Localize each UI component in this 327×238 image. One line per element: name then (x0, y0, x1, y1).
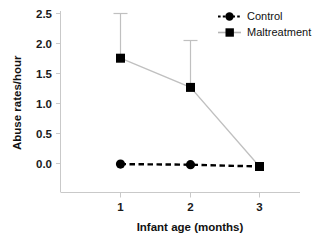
y-axis-title: Abuse rates/hour (11, 55, 23, 150)
legend-label-control: Control (247, 10, 282, 22)
legend-label-maltreatment: Maltreatment (247, 26, 311, 38)
data-point-maltreatment-2 (186, 83, 195, 92)
x-tick-label-1: 1 (117, 201, 124, 213)
chart-figure: 2.5 2.0 1.5 1.0 0.5 0.0 1 2 3 Abuse rate… (0, 0, 327, 238)
abuse-rates-line-chart: 2.5 2.0 1.5 1.0 0.5 0.0 1 2 3 Abuse rate… (0, 0, 327, 238)
y-tick-label-1-5: 1.5 (36, 68, 53, 80)
y-tick-label-2-0: 2.0 (36, 38, 52, 50)
y-tick-label-0-5: 0.5 (36, 128, 53, 140)
x-tick-label-3: 3 (256, 201, 262, 213)
y-tick-label-0-0: 0.0 (36, 158, 52, 170)
x-tick-label-2: 2 (187, 201, 193, 213)
data-point-control-1 (116, 160, 125, 169)
legend-marker-maltreatment-square-icon (226, 28, 234, 36)
x-axis-title: Infant age (months) (137, 221, 244, 233)
y-tick-label-1-0: 1.0 (36, 98, 52, 110)
data-point-control-3 (255, 162, 264, 171)
y-tick-label-2-5: 2.5 (36, 8, 53, 20)
legend-marker-control-circle-icon (225, 12, 233, 20)
data-point-maltreatment-1 (116, 54, 125, 63)
data-point-control-2 (186, 160, 195, 169)
